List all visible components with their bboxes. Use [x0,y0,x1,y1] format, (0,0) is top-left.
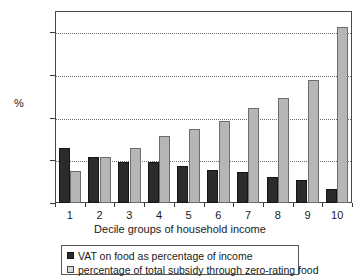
x-tick-mark [293,203,294,207]
x-tick-mark [352,203,353,207]
y-axis-title: % [14,98,24,109]
x-tick-mark [233,203,234,207]
x-tick-mark [263,203,264,207]
bar-subsidy-decile-1 [70,171,81,203]
x-tick-mark [144,203,145,207]
chart-legend: VAT on food as percentage of income perc… [61,245,299,275]
bar-vat-decile-4 [148,162,159,203]
bar-subsidy-decile-4 [159,136,170,203]
x-tick-label-decile-3: 3 [114,209,144,221]
x-tick-mark [55,203,56,207]
bar-subsidy-decile-8 [278,98,289,203]
bar-vat-decile-3 [118,162,129,203]
x-tick-label-decile-6: 6 [203,209,233,221]
legend-item-subsidy-share: percentage of total subsidy through zero… [67,263,298,276]
x-tick-mark [85,203,86,207]
bar-subsidy-decile-9 [308,80,319,203]
bar-vat-decile-6 [207,170,218,203]
x-tick-mark [322,203,323,207]
x-tick-label-decile-9: 9 [292,209,322,221]
x-tick-label-decile-4: 4 [144,209,174,221]
bar-subsidy-decile-6 [219,121,230,203]
legend-item-vat-on-food: VAT on food as percentage of income [67,249,298,262]
legend-label-vat-on-food: VAT on food as percentage of income [78,250,253,262]
legend-swatch-icon-light [67,266,74,273]
legend-label-subsidy-share: percentage of total subsidy through zero… [78,264,319,276]
x-tick-label-decile-1: 1 [55,209,85,221]
x-tick-label-decile-5: 5 [174,209,204,221]
legend-swatch-icon-dark [67,252,74,259]
x-tick-mark [114,203,115,207]
x-tick-label-decile-7: 7 [233,209,263,221]
x-axis-title: Decile groups of household income [0,223,360,235]
bar-vat-decile-9 [296,180,307,203]
bar-vat-decile-1 [59,148,70,203]
bar-vat-decile-7 [237,172,248,203]
x-tick-label-decile-8: 8 [263,209,293,221]
bar-subsidy-decile-7 [248,108,259,203]
x-tick-mark [204,203,205,207]
bar-subsidy-decile-2 [100,157,111,203]
x-tick-label-decile-10: 10 [322,209,352,221]
bar-vat-decile-8 [267,177,278,203]
bar-subsidy-decile-3 [130,148,141,203]
bar-series-layer [55,11,352,203]
x-tick-mark [174,203,175,207]
bar-subsidy-decile-10 [337,27,348,203]
bar-subsidy-decile-5 [189,129,200,203]
x-tick-label-decile-2: 2 [85,209,115,221]
bar-vat-decile-10 [326,189,337,204]
bar-vat-decile-5 [177,166,188,203]
bar-vat-decile-2 [88,157,99,203]
